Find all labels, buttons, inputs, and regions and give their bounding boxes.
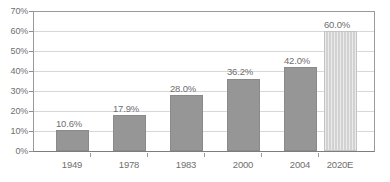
gridline [34,111,374,112]
x-axis-tickmark [204,153,205,157]
data-label-1978: 17.9% [96,104,156,114]
bar-2004[interactable] [284,67,317,151]
x-axis-tick-label-1983: 1983 [155,159,217,170]
y-axis-tick-label: 10% [11,127,28,136]
x-axis-tick-label-1978: 1978 [98,159,160,170]
x-axis-tickmark [318,153,319,157]
gridline [34,31,374,32]
data-label-2000: 36.2% [210,67,270,77]
x-axis-tickmark [90,153,91,157]
data-label-1983: 28.0% [153,84,213,94]
gridline [34,51,374,52]
x-axis-tick-label-2020E: 2020E [309,159,371,170]
y-axis-tick-label: 20% [11,107,28,116]
bar-1978[interactable] [113,115,146,151]
bar-1949[interactable] [56,130,89,151]
bar-chart: 70% 60% 50% 40% 30% 20% 10% 0% 10.6% 17.… [0,0,390,182]
data-label-2004: 42.0% [267,56,327,66]
x-axis-tickmark [147,153,148,157]
y-axis-tick-label: 0% [15,147,28,156]
x-axis-tick-label-1949: 1949 [41,159,103,170]
y-axis-label-group: 70% 60% 50% 40% 30% 20% 10% 0% [0,0,30,182]
data-label-2020E: 60.0% [307,20,367,30]
data-label-1949: 10.6% [39,119,99,129]
y-axis-tick-label: 30% [11,87,28,96]
gridline [34,71,374,72]
y-axis-tick-label: 50% [11,47,28,56]
bar-2000[interactable] [227,79,260,151]
x-axis-label-group: 1949 1978 1983 2000 2004 2020E [33,159,375,175]
y-axis-tick-label: 70% [11,7,28,16]
plot-area [33,11,375,152]
y-axis-tick-label: 40% [11,67,28,76]
x-axis-tickmark [261,153,262,157]
bar-1983[interactable] [170,95,203,151]
x-axis-tick-label-2000: 2000 [212,159,274,170]
bar-2020E[interactable] [324,31,357,151]
y-axis-tick-label: 60% [11,27,28,36]
